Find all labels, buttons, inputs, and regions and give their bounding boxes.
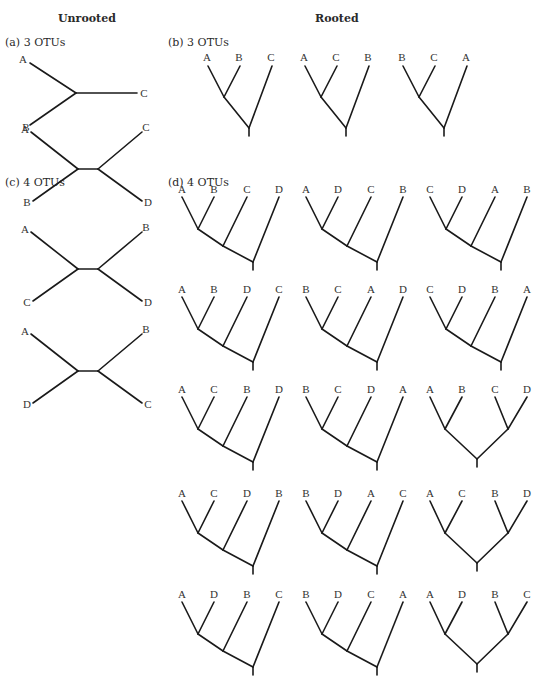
tip-label: A bbox=[491, 183, 499, 195]
branch bbox=[322, 197, 338, 229]
tip-label: A bbox=[203, 51, 211, 63]
branch bbox=[305, 66, 321, 97]
tip-label: D bbox=[334, 487, 342, 499]
branch bbox=[198, 429, 223, 446]
branch bbox=[347, 246, 377, 262]
tip-label: D bbox=[210, 588, 218, 600]
tip-label: C bbox=[243, 183, 250, 195]
branch bbox=[377, 501, 403, 566]
tip-label: A bbox=[178, 487, 186, 499]
branch bbox=[182, 501, 198, 533]
branch bbox=[430, 297, 446, 329]
tip-label: C bbox=[140, 87, 147, 99]
branch bbox=[322, 602, 338, 634]
tip-label: C bbox=[426, 183, 433, 195]
branch bbox=[508, 397, 527, 429]
branch bbox=[198, 602, 214, 634]
rooted-4-otu-tree: BDAC bbox=[302, 487, 406, 574]
rooted-4-otu-tree: ADBC bbox=[426, 588, 531, 672]
branch bbox=[501, 197, 527, 262]
branch bbox=[198, 397, 214, 429]
tip-label: B bbox=[210, 183, 217, 195]
tip-label: D bbox=[144, 296, 152, 308]
tip-label: C bbox=[210, 383, 217, 395]
tip-label: C bbox=[334, 283, 341, 295]
branch bbox=[445, 533, 477, 563]
branch bbox=[306, 602, 322, 634]
branch bbox=[33, 269, 78, 301]
branch bbox=[223, 346, 253, 362]
rooted-4-otu-tree: ADCB bbox=[302, 183, 407, 270]
tip-label: A bbox=[178, 183, 186, 195]
tip-label: B bbox=[523, 183, 530, 195]
branch bbox=[198, 329, 223, 346]
branch bbox=[98, 169, 142, 201]
branch bbox=[377, 602, 403, 667]
branch bbox=[208, 66, 224, 97]
tip-label: C bbox=[144, 398, 151, 410]
branch bbox=[31, 334, 78, 371]
branch bbox=[322, 329, 347, 346]
tip-label: D bbox=[334, 588, 342, 600]
tip-label: D bbox=[458, 183, 466, 195]
branch bbox=[446, 297, 462, 329]
branch bbox=[347, 446, 377, 462]
rooted-4-otu-tree: BDCA bbox=[302, 588, 407, 675]
branch bbox=[306, 501, 322, 533]
tip-label: B bbox=[491, 487, 498, 499]
branch bbox=[446, 229, 471, 246]
tip-label: A bbox=[302, 183, 310, 195]
branch bbox=[403, 66, 419, 97]
tip-label: C bbox=[275, 283, 282, 295]
branch bbox=[347, 501, 371, 550]
tip-label: A bbox=[178, 383, 186, 395]
branch bbox=[495, 602, 508, 634]
branch bbox=[30, 93, 76, 125]
branch bbox=[445, 602, 462, 634]
branch bbox=[446, 197, 462, 229]
branch bbox=[253, 197, 279, 262]
tip-label: B bbox=[302, 487, 309, 499]
branch bbox=[198, 634, 223, 651]
branch bbox=[98, 232, 142, 269]
branch bbox=[377, 197, 403, 262]
rooted-4-otu-tree: ADBC bbox=[178, 588, 283, 675]
tip-label: B bbox=[302, 588, 309, 600]
branch bbox=[419, 66, 435, 97]
branch bbox=[347, 651, 377, 667]
branch bbox=[322, 397, 338, 429]
branch bbox=[198, 533, 223, 550]
rooted-3-otu-tree: ABC bbox=[203, 51, 275, 136]
tip-label: A bbox=[367, 487, 375, 499]
branch bbox=[445, 429, 477, 459]
tip-label: A bbox=[367, 283, 375, 295]
branch bbox=[224, 97, 249, 128]
branch bbox=[446, 329, 471, 346]
branch bbox=[306, 397, 322, 429]
tree-diagram-canvas: ABCABCDACBDADBCABCACBBCAABCDADCBCDABABDC… bbox=[0, 0, 547, 691]
tip-label: B bbox=[491, 588, 498, 600]
tip-label: D bbox=[458, 283, 466, 295]
tip-label: C bbox=[267, 51, 274, 63]
tip-label: D bbox=[243, 487, 251, 499]
branch bbox=[223, 550, 253, 566]
tip-label: C bbox=[334, 383, 341, 395]
branch bbox=[471, 346, 501, 362]
tip-label: D bbox=[523, 383, 531, 395]
branch bbox=[501, 297, 527, 362]
rooted-4-otu-tree: ACDB bbox=[178, 487, 283, 574]
branch bbox=[322, 634, 347, 651]
branch bbox=[306, 197, 322, 229]
rooted-4-otu-tree: CDAB bbox=[426, 183, 530, 270]
branch bbox=[224, 66, 240, 97]
tip-label: B bbox=[491, 283, 498, 295]
tip-label: A bbox=[19, 53, 27, 65]
tip-label: B bbox=[235, 51, 242, 63]
tip-label: C bbox=[332, 51, 339, 63]
tip-label: C bbox=[275, 588, 282, 600]
branch bbox=[508, 602, 527, 634]
branch bbox=[223, 197, 247, 246]
rooted-4-otu-tree: BCDA bbox=[302, 383, 407, 470]
branch bbox=[223, 246, 253, 262]
branch bbox=[31, 232, 78, 269]
